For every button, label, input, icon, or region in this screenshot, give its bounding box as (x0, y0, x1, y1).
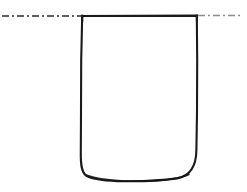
figure-container: open-topped vessel outline crossed by a … (0, 0, 247, 192)
line-drawing-canvas (0, 0, 247, 192)
drawing-background (0, 0, 247, 192)
